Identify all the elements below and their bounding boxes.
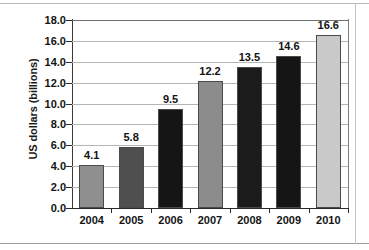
y-tick-mark [66,166,72,167]
x-tick-mark [269,208,270,213]
bars-group: 4.15.89.512.213.514.616.6 [72,20,348,208]
y-tick-mark [66,208,72,209]
y-tick-label: 8.0 [32,119,66,130]
x-tick-mark [309,208,310,213]
bar-value-label: 14.6 [265,41,313,52]
y-tick-mark [66,83,72,84]
x-tick-mark [348,208,349,213]
y-tick-label: 12.0 [32,78,66,89]
plot-area: 4.15.89.512.213.514.616.6 [72,20,348,208]
bar[interactable] [237,67,262,208]
y-tick-label: 0.0 [32,203,66,214]
y-tick-mark [66,41,72,42]
bar-value-label: 12.2 [186,66,234,77]
plot-right-border [348,19,349,209]
bar[interactable] [158,109,183,208]
bar-value-label: 5.8 [107,132,155,143]
x-tick-mark [230,208,231,213]
bar-value-label: 13.5 [225,52,273,63]
bar-value-label: 4.1 [68,150,116,161]
x-tick-mark [111,208,112,213]
y-tick-mark [66,62,72,63]
y-tick-label: 10.0 [32,99,66,110]
y-axis-tick-labels: 18.016.014.012.010.08.06.04.02.00.0 [30,0,66,250]
y-tick-label: 14.0 [32,57,66,68]
bar[interactable] [119,147,144,208]
y-tick-mark [66,187,72,188]
bar-value-label: 9.5 [147,94,195,105]
y-tick-mark [66,124,72,125]
x-tick-mark [190,208,191,213]
x-axis-line [66,208,349,209]
x-tick-mark [151,208,152,213]
y-tick-label: 18.0 [32,15,66,26]
y-tick-label: 16.0 [32,36,66,47]
y-tick-mark [66,104,72,105]
bar[interactable] [276,56,301,208]
bar[interactable] [79,165,104,208]
y-tick-mark [66,20,72,21]
bar-value-label: 16.6 [304,20,352,31]
y-tick-label: 6.0 [32,140,66,151]
x-tick-label: 2010 [304,214,352,226]
y-tick-mark [66,145,72,146]
bar[interactable] [316,35,341,208]
y-tick-label: 4.0 [32,161,66,172]
bar[interactable] [198,81,223,208]
bar-chart-figure: US dollars (billions) 18.016.014.012.010… [0,0,369,250]
y-tick-label: 2.0 [32,182,66,193]
